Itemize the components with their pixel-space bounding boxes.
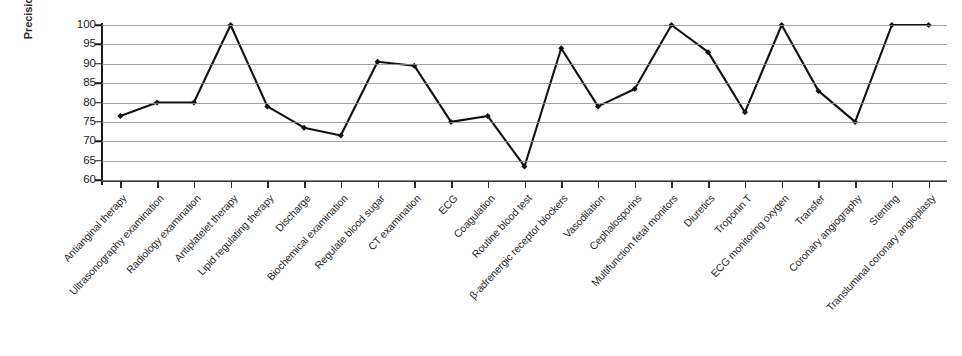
x-tickmark: [304, 181, 306, 188]
y-tick-label: 90: [70, 58, 96, 70]
y-tick-label: 80: [70, 97, 96, 109]
x-tick-label: Antiplatelet therapy: [171, 192, 239, 264]
y-tickmark: [95, 141, 102, 143]
y-tickmark: [95, 160, 102, 162]
gridline: [102, 103, 947, 104]
gridline: [102, 44, 947, 45]
gridline: [102, 83, 947, 84]
plot-area: [102, 25, 947, 180]
y-tick-label: 100: [70, 19, 96, 31]
x-tickmark: [708, 181, 710, 188]
x-tickmark: [451, 181, 453, 188]
gridline: [102, 25, 947, 26]
y-tickmark: [95, 179, 102, 181]
y-tick-label: 65: [70, 155, 96, 167]
x-tickmark: [525, 181, 527, 188]
x-tick-label: Transfer: [793, 192, 827, 228]
y-tickmark: [95, 63, 102, 65]
x-tick-label: Regulate blood sugar: [311, 192, 386, 271]
y-tickmark: [95, 102, 102, 104]
x-tickmark: [855, 181, 857, 188]
y-tick-label: 95: [70, 39, 96, 51]
x-tickmark: [488, 181, 490, 188]
x-tickmark: [561, 181, 563, 188]
x-axis-tick-labels: Antianginal therapyUltrasonography exami…: [102, 192, 947, 352]
y-tick-label: 85: [70, 77, 96, 89]
x-tickmark: [378, 181, 380, 188]
data-point-marker: [117, 113, 123, 119]
x-tickmark: [120, 181, 122, 188]
x-tickmark: [414, 181, 416, 188]
gridline: [102, 141, 947, 142]
y-tick-label: 75: [70, 116, 96, 128]
y-tick-label: 70: [70, 136, 96, 148]
y-axis-tick-labels: 6065707580859095100: [44, 0, 96, 356]
precision-line-chart: Precision (%) 6065707580859095100 Antian…: [0, 0, 962, 356]
gridline: [102, 122, 947, 123]
y-tickmark: [95, 24, 102, 26]
y-tickmark: [95, 44, 102, 46]
x-tick-label: ECG: [436, 192, 460, 217]
x-tickmark: [231, 181, 233, 188]
x-tick-label: Coronary angiography: [786, 192, 864, 274]
x-tickmark: [194, 181, 196, 188]
x-tickmark: [745, 181, 747, 188]
y-tick-label: 60: [70, 174, 96, 186]
gridline: [102, 64, 947, 65]
x-tickmark: [157, 181, 159, 188]
x-tick-label: Diuretics: [681, 192, 717, 229]
x-tickmark: [671, 181, 673, 188]
x-tickmark: [818, 181, 820, 188]
x-tickmark: [341, 181, 343, 188]
x-tickmark: [635, 181, 637, 188]
x-tickmark: [929, 181, 931, 188]
y-axis-title: Precision (%): [22, 0, 34, 60]
x-tickmark: [598, 181, 600, 188]
y-tickmark: [95, 82, 102, 84]
series-line: [120, 25, 928, 166]
y-tickmark: [95, 121, 102, 123]
gridline: [102, 161, 947, 162]
x-tickmark: [267, 181, 269, 188]
x-tickmark: [782, 181, 784, 188]
x-tickmark: [892, 181, 894, 188]
x-tick-label: Stenting: [866, 192, 900, 227]
